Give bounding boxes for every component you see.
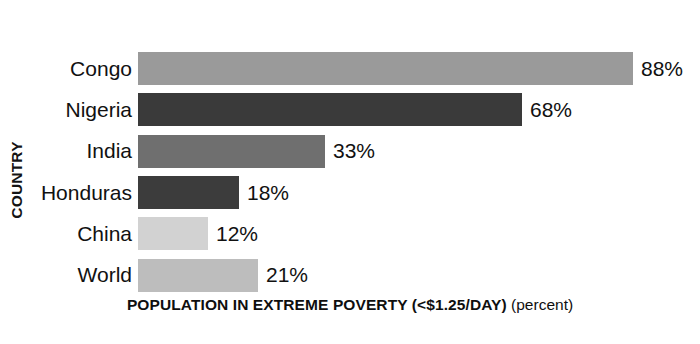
bar-congo [138, 52, 633, 85]
bar-value-india: 33% [333, 139, 375, 163]
bar-china [138, 217, 208, 250]
category-label-congo: Congo [70, 57, 132, 81]
plot-area: Congo 88% Nigeria 68% India 33% Honduras… [0, 48, 700, 296]
bar-value-china: 12% [216, 222, 258, 246]
bar-value-world: 21% [266, 263, 308, 287]
category-label-nigeria: Nigeria [65, 98, 132, 122]
bar-row: Congo 88% [0, 48, 700, 89]
x-axis-title: POPULATION IN EXTREME POVERTY (<$1.25/DA… [0, 296, 700, 314]
bar-world [138, 259, 258, 292]
bar-row: Honduras 18% [0, 172, 700, 213]
bar-value-congo: 88% [641, 57, 683, 81]
category-label-china: China [77, 222, 132, 246]
bar-row: Nigeria 68% [0, 89, 700, 130]
bar-india [138, 135, 325, 168]
x-axis-unit-text: (percent) [511, 296, 573, 313]
category-label-world: World [78, 263, 132, 287]
bar-row: India 33% [0, 131, 700, 172]
bar-row: World 21% [0, 255, 700, 296]
category-label-india: India [86, 139, 132, 163]
category-label-honduras: Honduras [41, 181, 132, 205]
bar-value-honduras: 18% [247, 181, 289, 205]
bar-honduras [138, 176, 239, 209]
bar-chart: COUNTRY Congo 88% Nigeria 68% India 33% … [0, 0, 700, 344]
bar-row: China 12% [0, 213, 700, 254]
x-axis-title-text: POPULATION IN EXTREME POVERTY (<$1.25/DA… [127, 296, 507, 313]
bar-value-nigeria: 68% [530, 98, 572, 122]
bar-nigeria [138, 93, 522, 126]
